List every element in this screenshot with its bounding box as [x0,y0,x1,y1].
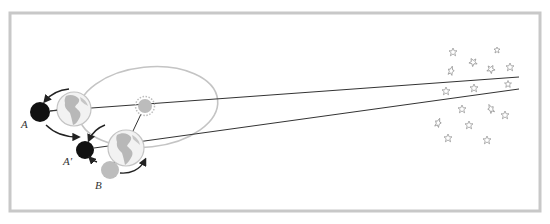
arrow-moon-a-prime-to-b [90,158,97,162]
star-icon [486,64,497,75]
star-icon [486,103,495,114]
star-icon [468,57,479,68]
star-icon [444,134,452,142]
star-icon [465,121,473,129]
star-icon [434,117,443,128]
earth-icon-1 [57,92,91,126]
earth-icon-2 [108,130,144,166]
label-moon-b: B [95,179,102,191]
label-moon-a-prime: A′ [62,155,73,167]
star-icon [494,47,500,53]
diagram-canvas: A A′ B [0,0,550,224]
moon-a [30,102,50,122]
star-icon [483,136,491,144]
sun-icon [136,97,155,116]
star-icon [449,48,457,56]
label-moon-a: A [20,118,28,130]
star-icon [501,111,509,119]
arrow-moon-a-bottom [46,125,78,137]
star-icon [442,87,450,95]
star-icon [458,105,466,113]
star-icon [447,65,455,75]
moon-a-prime [76,141,94,159]
moon-b [101,161,119,179]
earth-sun-link [133,114,141,131]
sight-line-a-prime [94,89,519,148]
star-icon [470,84,478,92]
star-icon [506,63,514,71]
star-icon [505,81,512,88]
